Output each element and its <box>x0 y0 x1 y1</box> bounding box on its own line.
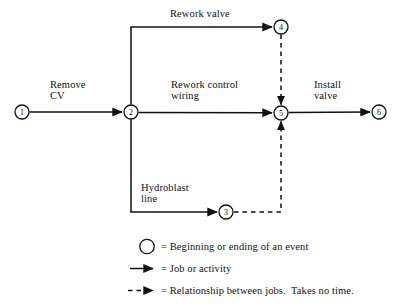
edge-label-rework-valve: Rework valve <box>170 8 230 20</box>
edge-label-install-valve-line2: valve <box>314 90 337 102</box>
legend-item-job-text: = Job or activity <box>161 263 231 274</box>
node-4-label: 4 <box>279 23 283 32</box>
edge-label-hydroblast-line2: line <box>141 193 157 205</box>
edge-label-remove-cv-line2: CV <box>50 90 65 102</box>
node-5[interactable]: 5 <box>274 106 288 120</box>
node-2-label: 2 <box>129 108 133 117</box>
node-3[interactable]: 3 <box>219 205 233 219</box>
edge-label-rework-control-line1: Rework control <box>171 79 238 91</box>
node-4[interactable]: 4 <box>274 20 288 34</box>
edge-dummy-3-to-5 <box>234 122 281 213</box>
network-diagram-svg: 1 2 3 4 5 6 <box>0 0 401 306</box>
node-6[interactable]: 6 <box>372 105 386 119</box>
node-2[interactable]: 2 <box>124 105 138 119</box>
node-6-label: 6 <box>377 108 381 117</box>
node-1-label: 1 <box>20 108 24 117</box>
edge-label-hydroblast-line1: Hydroblast <box>141 182 189 194</box>
legend-item-event-text: = Beginning or ending of an event <box>161 241 308 252</box>
edge-label-install-valve-line1: Install <box>314 79 341 91</box>
node-3-label: 3 <box>224 208 228 217</box>
node-5-label: 5 <box>279 109 283 118</box>
legend-event-circle-icon <box>140 239 154 253</box>
legend-item-relationship-text: = Relationship between jobs. Takes no ti… <box>161 285 354 296</box>
edge-label-remove-cv-line1: Remove <box>50 79 86 91</box>
node-1[interactable]: 1 <box>15 105 29 119</box>
edge-label-rework-control-line2: wiring <box>171 90 199 102</box>
network-diagram-canvas: 1 2 3 4 5 6 Remove CV Rework valve Rewor <box>0 0 401 306</box>
